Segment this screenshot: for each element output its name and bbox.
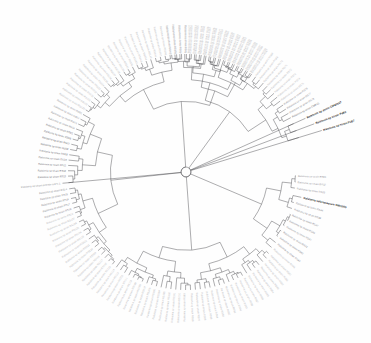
tip-label: Ralstonia sp strain RS21	[183, 25, 186, 53]
tip-label: Ralstonia sp strain RS99	[184, 293, 187, 321]
tip-label: Ralstonia sp strain RS12	[38, 170, 66, 173]
phylogenetic-tree-figure: Ralstonia sp strain RS50Ralstonia sp str…	[0, 0, 371, 343]
tip-label: Ralstonia sp strain RS98	[189, 293, 193, 321]
tip-label: Ralstonia sp strain RS20	[177, 25, 181, 53]
